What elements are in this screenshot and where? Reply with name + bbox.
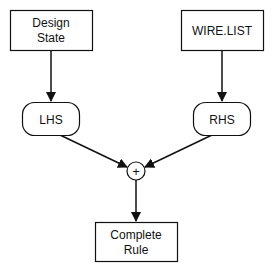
edge-lhs-to-combine	[60, 135, 127, 167]
node-complete-rule: Complete Rule	[96, 223, 178, 262]
design-state-line2: State	[37, 31, 65, 45]
rhs-label: RHS	[209, 113, 234, 127]
rule-diagram: Design State WIRE.LIST LHS RHS + Complet…	[0, 0, 272, 270]
node-lhs: LHS	[23, 103, 80, 136]
node-design-state: Design State	[11, 11, 93, 51]
node-wire-list: WIRE.LIST	[182, 11, 264, 51]
node-rhs: RHS	[194, 103, 251, 136]
plus-icon: +	[132, 164, 140, 179]
edges	[51, 50, 222, 221]
wire-list-label: WIRE.LIST	[192, 24, 253, 38]
lhs-label: LHS	[39, 113, 62, 127]
node-combine: +	[127, 162, 145, 180]
complete-rule-line1: Complete	[110, 228, 162, 242]
complete-rule-line2: Rule	[124, 243, 149, 257]
design-state-line1: Design	[32, 16, 69, 30]
edge-rhs-to-combine	[145, 135, 212, 167]
